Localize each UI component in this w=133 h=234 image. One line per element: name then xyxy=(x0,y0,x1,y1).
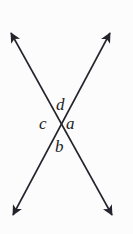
angle-label-c: c xyxy=(39,115,47,132)
angle-label-d: d xyxy=(56,96,65,113)
vertical-angles-figure: d a c b xyxy=(0,0,133,234)
angle-label-a: a xyxy=(66,115,75,132)
ray-line-nw-se xyxy=(11,33,112,215)
angle-label-b: b xyxy=(55,138,64,155)
